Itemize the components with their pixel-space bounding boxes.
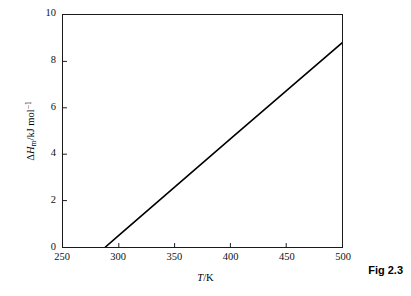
- x-axis-title: T/K: [0, 272, 411, 283]
- y-tick-label-0: 0: [28, 242, 56, 253]
- y-axis-title-separator: /kJ mol: [25, 109, 36, 140]
- y-axis-title-subscript: m: [29, 141, 38, 147]
- x-tick-label-500: 500: [323, 252, 363, 263]
- y-axis-title-wrapper: ΔHm/kJ mol−1: [0, 0, 62, 262]
- x-tick-label-450: 450: [267, 252, 307, 263]
- figure-container: 250300350400450500 0246810 T/K ΔHm/kJ mo…: [0, 0, 411, 296]
- y-axis-ticks: [63, 61, 67, 200]
- plot-frame: [62, 14, 343, 248]
- x-axis-ticks: [119, 243, 286, 247]
- x-tick-label-350: 350: [154, 252, 194, 263]
- y-tick-label-8: 8: [28, 55, 56, 66]
- y-tick-label-6: 6: [28, 102, 56, 113]
- data-line-0: [105, 43, 342, 247]
- x-tick-label-250: 250: [42, 252, 82, 263]
- x-tick-label-300: 300: [98, 252, 138, 263]
- plot-svg: [63, 15, 342, 247]
- y-tick-label-4: 4: [28, 148, 56, 159]
- x-tick-label-400: 400: [211, 252, 251, 263]
- y-tick-label-2: 2: [28, 195, 56, 206]
- figure-caption: Fig 2.3: [368, 264, 403, 276]
- y-tick-label-10: 10: [28, 8, 56, 19]
- data-series-group: [105, 43, 342, 247]
- x-axis-title-separator: /K: [203, 272, 214, 283]
